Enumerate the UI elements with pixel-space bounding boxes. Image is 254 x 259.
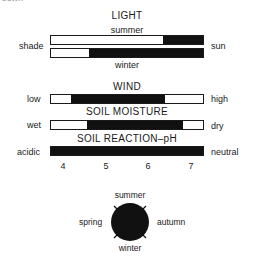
soil-ph-title: SOIL REACTION–pH bbox=[50, 133, 204, 144]
season-autumn-label: autumn bbox=[157, 217, 185, 227]
ph-tick-5: 5 bbox=[100, 161, 112, 171]
light-summer-label: summer bbox=[0, 25, 254, 35]
season-dial-icon bbox=[106, 198, 154, 246]
light-right-label: sun bbox=[211, 41, 226, 51]
wind-bar bbox=[50, 94, 204, 104]
soil-ph-left-label: acidic bbox=[17, 147, 40, 157]
season-spring-label: spring bbox=[79, 217, 102, 227]
ph-tick-6: 6 bbox=[142, 161, 154, 171]
ph-tick-4: 4 bbox=[57, 161, 69, 171]
light-winter-label: winter bbox=[0, 60, 254, 70]
soil-ph-bar bbox=[50, 146, 204, 156]
soil-ph-right-label: neutral bbox=[211, 147, 239, 157]
soil-moisture-title: SOIL MOISTURE bbox=[50, 106, 204, 117]
soil-moisture-left-label: wet bbox=[27, 120, 41, 130]
wind-right-label: high bbox=[211, 94, 228, 104]
light-winter-bar bbox=[50, 48, 204, 58]
light-summer-fill bbox=[163, 36, 203, 44]
light-summer-bar bbox=[50, 35, 204, 45]
wind-left-label: low bbox=[27, 94, 41, 104]
wind-fill bbox=[71, 95, 165, 103]
soil-moisture-fill bbox=[87, 121, 183, 129]
soil-ph-fill bbox=[51, 147, 203, 155]
soil-moisture-right-label: dry bbox=[211, 121, 224, 131]
light-title: LIGHT bbox=[50, 10, 204, 21]
ph-tick-7: 7 bbox=[185, 161, 197, 171]
soil-moisture-bar bbox=[50, 120, 204, 130]
cropped-text-fragment: sown bbox=[2, 0, 23, 3]
light-left-label: shade bbox=[19, 41, 44, 51]
wind-title: WIND bbox=[50, 81, 204, 92]
light-winter-fill bbox=[89, 49, 203, 57]
